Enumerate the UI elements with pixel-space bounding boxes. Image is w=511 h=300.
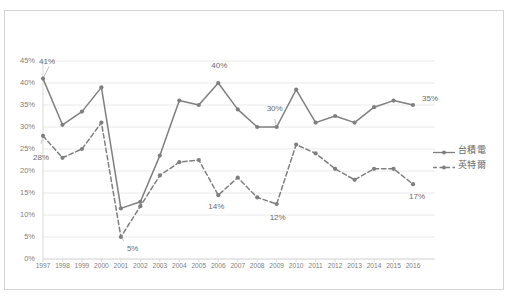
data-point bbox=[333, 167, 337, 171]
data-point bbox=[119, 206, 123, 210]
data-point bbox=[391, 167, 395, 171]
data-point bbox=[197, 158, 201, 162]
y-tick-label: 5% bbox=[9, 233, 35, 241]
data-point bbox=[99, 85, 103, 89]
data-point bbox=[99, 121, 103, 125]
data-point bbox=[80, 147, 84, 151]
annotation-label: 41% bbox=[39, 57, 55, 66]
legend-key-solid-icon bbox=[433, 144, 455, 155]
annotation-label: 14% bbox=[208, 202, 224, 211]
legend-label-intel: 英特爾 bbox=[458, 158, 486, 171]
annotation-label: 28% bbox=[33, 153, 49, 162]
data-point bbox=[41, 77, 45, 81]
y-tick-label: 15% bbox=[9, 189, 35, 197]
legend-item-tsmc[interactable]: 台積電 bbox=[433, 142, 503, 157]
chart-container: 0%5%10%15%20%25%30%35%40%45% 19971998199… bbox=[4, 10, 504, 290]
annotation-label: 12% bbox=[270, 213, 286, 222]
data-point bbox=[158, 173, 162, 177]
data-point bbox=[411, 103, 415, 107]
series-line-0 bbox=[43, 79, 413, 209]
data-point bbox=[60, 156, 64, 160]
data-point bbox=[411, 182, 415, 186]
series-lines bbox=[43, 79, 413, 237]
legend-item-intel[interactable]: 英特爾 bbox=[433, 157, 503, 172]
x-tick-label: 2016 bbox=[400, 262, 426, 270]
annotation-label: 5% bbox=[127, 244, 139, 253]
data-point bbox=[177, 160, 181, 164]
data-point bbox=[80, 110, 84, 114]
annotation-label: 17% bbox=[409, 192, 425, 201]
data-point bbox=[352, 178, 356, 182]
y-tick-label: 45% bbox=[9, 57, 35, 65]
series-line-1 bbox=[43, 123, 413, 237]
data-point bbox=[255, 195, 259, 199]
annotation-label: 30% bbox=[267, 104, 283, 113]
data-point bbox=[177, 99, 181, 103]
legend-key-dashed-icon bbox=[433, 159, 455, 170]
data-point bbox=[216, 193, 220, 197]
annotation-label: 40% bbox=[211, 61, 227, 70]
data-point bbox=[294, 88, 298, 92]
y-tick-label: 10% bbox=[9, 211, 35, 219]
data-point bbox=[216, 81, 220, 85]
data-point bbox=[138, 200, 142, 204]
data-point bbox=[158, 154, 162, 158]
data-point bbox=[372, 105, 376, 109]
y-tick-label: 25% bbox=[9, 145, 35, 153]
chart-legend: 台積電 英特爾 bbox=[433, 142, 503, 172]
data-point bbox=[391, 99, 395, 103]
line-chart-plot bbox=[5, 11, 505, 291]
data-point bbox=[333, 114, 337, 118]
y-tick-label: 40% bbox=[9, 79, 35, 87]
data-point bbox=[236, 176, 240, 180]
data-point bbox=[41, 134, 45, 138]
data-point bbox=[119, 235, 123, 239]
data-point bbox=[372, 167, 376, 171]
y-tick-label: 20% bbox=[9, 167, 35, 175]
data-point bbox=[275, 125, 279, 129]
chart-title bbox=[5, 2, 505, 11]
data-point bbox=[60, 123, 64, 127]
data-point bbox=[255, 125, 259, 129]
data-point bbox=[352, 121, 356, 125]
data-point bbox=[314, 121, 318, 125]
y-tick-label: 30% bbox=[9, 123, 35, 131]
y-tick-label: 35% bbox=[9, 101, 35, 109]
annotation-label: 35% bbox=[422, 94, 438, 103]
data-point bbox=[294, 143, 298, 147]
data-point bbox=[275, 202, 279, 206]
legend-label-tsmc: 台積電 bbox=[458, 143, 486, 156]
data-point bbox=[138, 204, 142, 208]
data-point bbox=[197, 103, 201, 107]
data-point bbox=[236, 107, 240, 111]
data-point bbox=[314, 151, 318, 155]
